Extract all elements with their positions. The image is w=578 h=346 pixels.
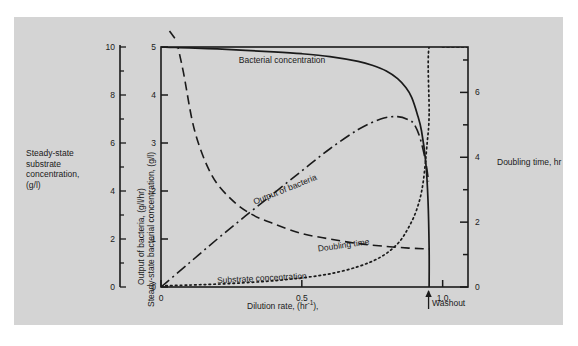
- axis-bottom-title-suffix: ),: [313, 301, 318, 311]
- axis-right-tick-label: 6: [475, 87, 480, 97]
- axis-left-inner-tick-label: 4: [151, 90, 156, 100]
- axis-left-outer-tick-label: 10: [106, 42, 116, 52]
- curve-label-output: Output of bacteria: [252, 172, 319, 207]
- axis-right: 0246: [460, 60, 480, 292]
- axis-left-outer-tick-label: 4: [110, 186, 115, 196]
- axis-bottom-title-text: Dilution rate, (hr: [247, 301, 307, 311]
- curve-label-bacterial: Bacterial concentration: [239, 55, 326, 65]
- axis-left-inner-title-line2: Steady-state bacterial concentration, (g…: [146, 152, 156, 307]
- axis-left-outer-tick-label: 2: [110, 234, 115, 244]
- axis-left-inner-tick-label: 5: [151, 42, 156, 52]
- axis-left-inner-tick-label: 3: [151, 138, 156, 148]
- axis-left-outer-tick-label: 6: [110, 138, 115, 148]
- axis-right-title: Doubling time, hr: [497, 157, 561, 168]
- axis-bottom-tick-label: 0: [159, 293, 164, 303]
- axis-left-outer-title: Steady-state substrate concentration, (g…: [26, 148, 106, 190]
- figure-panel: 0246810 012345 0246 00.51.0 Bacterial co…: [14, 17, 563, 325]
- axis-right-tick-label: 4: [475, 152, 480, 162]
- data-curves: Bacterial concentrationOutput of bacteri…: [161, 31, 468, 287]
- axis-right-tick-label: 0: [475, 282, 480, 292]
- axis-left-outer-tick-label: 0: [110, 282, 115, 292]
- curve-doubling-time: [176, 41, 429, 250]
- curve-label-substrate: Substrate concentration: [217, 271, 307, 286]
- axis-bottom-title: Dilution rate, (hr-1),: [247, 298, 318, 311]
- axis-left-outer: 0246810: [106, 42, 126, 292]
- axis-left-outer-tick-label: 8: [110, 90, 115, 100]
- axis-right-tick-label: 2: [475, 217, 480, 227]
- washout-marker: [425, 290, 431, 309]
- curve-label-doubling: Doubling time: [317, 236, 370, 253]
- curve-doubling-time-extension: [169, 31, 176, 41]
- axis-left-inner-title-line1: Output of bacteria, (g/l/hr): [136, 188, 146, 285]
- curve-output-of-bacteria: [161, 117, 429, 287]
- washout-label: Washout: [432, 298, 465, 309]
- curve-bacterial-concentration: [161, 47, 429, 287]
